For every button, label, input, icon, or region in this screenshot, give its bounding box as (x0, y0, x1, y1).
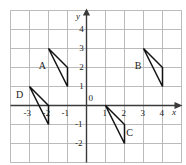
shape-label-d: D (16, 90, 23, 100)
shape-label-b: B (135, 61, 142, 71)
x-tick-label: -2 (43, 109, 51, 118)
shape-label-a: A (39, 61, 46, 71)
x-tick-label: 2 (122, 109, 127, 118)
y-tick-label: 3 (79, 44, 84, 53)
grid-lines (11, 11, 182, 163)
y-axis-arrowhead (83, 9, 90, 16)
shape-label-c: C (126, 128, 133, 138)
x-tick-label: -3 (24, 109, 32, 118)
y-tick-label: -2 (75, 139, 83, 148)
y-axis-label: y (76, 12, 80, 21)
y-tick-label: 1 (79, 82, 84, 91)
coordinate-plane-figure: y x -3-2-101234 4321-1-2 ABCD (0, 0, 186, 165)
y-tick-label: 2 (79, 63, 84, 72)
x-axis-label: x (172, 108, 176, 117)
x-tick-label: 3 (141, 109, 146, 118)
shape-polygons (30, 49, 163, 144)
y-tick-label: 4 (79, 25, 84, 34)
origin-label: 0 (89, 94, 94, 103)
y-tick-label: -1 (75, 120, 83, 129)
x-tick-label: 1 (103, 109, 108, 118)
axes (11, 9, 183, 163)
coordinate-plot-svg (0, 0, 186, 165)
x-tick-label: -1 (62, 109, 70, 118)
x-tick-label: 4 (160, 109, 165, 118)
